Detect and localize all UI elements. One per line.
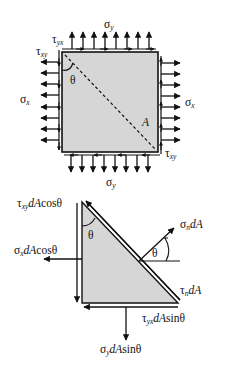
sigma-y-bottom-label: σy <box>106 176 116 190</box>
area-label: A <box>141 116 150 128</box>
tau-yx-term-label: τyxdAsinθ <box>142 312 185 326</box>
theta-wedge-label: θ <box>88 229 94 241</box>
sigma-x-left-label: σx <box>20 93 30 107</box>
tau-yx-label: τyx <box>52 33 64 47</box>
tau-xy-right-label: τxy <box>165 147 177 161</box>
sigma-x-right-arrows <box>161 63 180 140</box>
wedge-triangle <box>82 202 178 303</box>
sigma-y-top-label: σy <box>104 18 114 32</box>
sigma-x-right-label: σx <box>185 96 195 110</box>
sigma-n-term-label: σndA <box>180 218 204 232</box>
tau-xy-term-label: τxydAcosθ <box>17 197 62 211</box>
figure-canvas: σy τyx τxy σx σx τxy σy θ A τxydAcosθ <box>0 0 226 373</box>
tau-xy-left-label: τxy <box>36 45 48 59</box>
sigma-y-bottom-arrows <box>71 155 148 172</box>
theta-normal-arc <box>165 238 169 261</box>
theta-label: θ <box>70 74 76 86</box>
theta-normal-label: θ <box>152 247 158 259</box>
tau-n-term-label: τndA <box>180 284 202 298</box>
sigma-y-top-arrows <box>72 32 149 49</box>
stress-element <box>41 32 180 172</box>
sigma-y-term-label: σydAsinθ <box>100 343 142 357</box>
sigma-x-term-label: σxdAcosθ <box>14 244 58 258</box>
sigma-x-left-arrows <box>41 62 59 140</box>
stress-transformation-figure: σy τyx τxy σx σx τxy σy θ A τxydAcosθ <box>0 0 226 373</box>
